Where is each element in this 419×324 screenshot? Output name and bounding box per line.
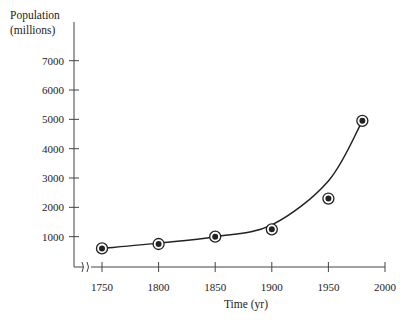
data-points (97, 115, 368, 254)
data-point-marker (357, 115, 368, 126)
data-point-marker (323, 193, 334, 204)
x-tick-label: 1800 (148, 281, 171, 293)
marker-dot (269, 226, 275, 232)
marker-dot (99, 245, 105, 251)
fitted-curve (102, 121, 362, 249)
marker-dot (212, 234, 218, 240)
y-tick-label: 1000 (42, 231, 65, 243)
y-tick-label: 7000 (42, 55, 65, 67)
marker-dot (325, 196, 331, 202)
x-tick-label: 1950 (317, 281, 340, 293)
x-tick-label: 1900 (261, 281, 284, 293)
y-tick-label: 2000 (42, 201, 65, 213)
data-point-marker (97, 243, 108, 254)
population-chart: 1000200030004000500060007000175018001850… (0, 0, 419, 324)
marker-dot (156, 241, 162, 247)
y-tick-label: 4000 (42, 143, 65, 155)
x-tick-label: 1750 (91, 281, 114, 293)
y-tick-label: 5000 (42, 113, 65, 125)
data-point-marker (153, 239, 164, 250)
x-tick-label: 2000 (374, 281, 397, 293)
data-point-marker (210, 231, 221, 242)
y-tick-label: 6000 (42, 84, 65, 96)
marker-dot (359, 118, 365, 124)
x-tick-label: 1850 (204, 281, 227, 293)
axis-break-gap (83, 265, 91, 269)
y-tick-label: 3000 (42, 172, 65, 184)
fit-curve-path (102, 121, 362, 249)
data-point-marker (266, 224, 277, 235)
x-axis-title: Time (yr) (224, 298, 268, 310)
